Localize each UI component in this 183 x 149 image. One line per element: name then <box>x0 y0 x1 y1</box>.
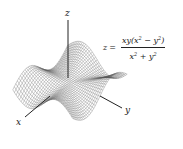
formula-numerator: xy(x2 − y2) <box>121 33 165 48</box>
y-axis-label: y <box>124 105 131 115</box>
formula-lhs: z <box>103 43 107 52</box>
den-exp-2: 2 <box>154 51 157 57</box>
x-axis-label: x <box>16 117 21 127</box>
y-axis <box>100 96 122 108</box>
formula: z = xy(x2 − y2) x2 + y2 <box>103 33 165 62</box>
x-axis <box>25 96 50 117</box>
z-axis-label: z <box>64 8 70 18</box>
formula-denominator: x2 + y2 <box>130 48 157 62</box>
formula-equals: = <box>109 43 116 52</box>
num-part-3: ) <box>161 36 164 45</box>
den-part-2: + y <box>137 52 153 61</box>
num-part-1: xy(x <box>122 36 139 45</box>
num-part-2: − y <box>142 36 158 45</box>
surface-plot: z x y <box>0 0 183 149</box>
formula-fraction: xy(x2 − y2) x2 + y2 <box>121 33 165 62</box>
